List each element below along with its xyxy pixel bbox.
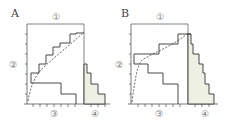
marker-4: ④ (91, 109, 99, 119)
marker-1: ① (52, 12, 60, 22)
marker-3: ③ (155, 109, 163, 119)
panel-b-label: B (121, 7, 129, 20)
marker-2: ② (9, 60, 17, 70)
marker-1: ① (156, 12, 164, 22)
panel-b: B ① ② ③ ④ (115, 7, 218, 119)
panel-a: A ① ② ③ ④ (9, 7, 110, 119)
lower-staircase (31, 83, 76, 104)
shaded-staircase (188, 34, 214, 104)
ascending-staircase (31, 33, 84, 83)
marker-2: ② (115, 60, 123, 70)
shaded-staircase (84, 64, 105, 104)
dashed-curve (28, 32, 84, 101)
panel-a-label: A (10, 7, 20, 20)
dashed-curve (132, 33, 188, 102)
diagram: A ① ② ③ ④ (0, 0, 229, 125)
marker-4: ④ (201, 109, 209, 119)
lower-staircase (134, 64, 178, 104)
marker-3: ③ (50, 109, 58, 119)
